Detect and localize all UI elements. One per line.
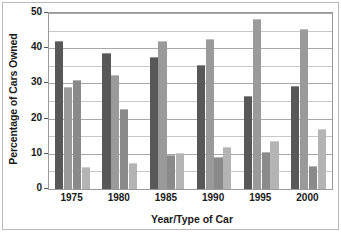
x-tick-label: 1985 — [155, 192, 177, 203]
x-axis-title: Year/Type of Car — [48, 213, 336, 225]
x-tick-label: 2000 — [296, 192, 318, 203]
y-tick-mark — [44, 47, 48, 48]
y-tick-label: 20 — [4, 113, 42, 123]
x-tick-label: 1995 — [249, 192, 271, 203]
y-tick-label: 30 — [4, 77, 42, 87]
y-tick-mark — [44, 12, 48, 13]
x-tick-label: 1975 — [60, 192, 82, 203]
y-axis-title: Percentage of Cars Owned — [7, 9, 19, 189]
x-tick-label: 1980 — [108, 192, 130, 203]
y-tick-mark — [44, 82, 48, 83]
x-axis-ticks: 197519801985199019952000 — [48, 192, 333, 208]
y-axis-ticks: 01020304050 — [48, 12, 333, 190]
y-tick-label: 10 — [4, 148, 42, 158]
y-tick-mark — [44, 188, 48, 189]
y-tick-label: 0 — [4, 183, 42, 193]
y-tick-mark — [44, 153, 48, 154]
y-tick-label: 50 — [4, 7, 42, 17]
y-tick-mark — [44, 118, 48, 119]
chart-figure: Percentage of Cars Owned Year/Type of Ca… — [0, 0, 341, 232]
y-tick-label: 40 — [4, 42, 42, 52]
x-tick-label: 1990 — [202, 192, 224, 203]
